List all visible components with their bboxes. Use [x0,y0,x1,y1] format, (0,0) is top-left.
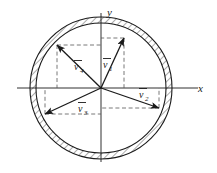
v4-label-text: v [74,61,79,72]
annulus-hatched-region [0,0,217,173]
v1-label-text: v [103,59,108,70]
figure-container: x y v 1 v 2 v 3 v 4 [0,0,217,173]
y-axis-label: y [106,6,112,18]
v3-label-subscript: 3 [83,109,88,117]
vector-diagram: x y v 1 v 2 v 3 v 4 [0,0,217,173]
v3-label-text: v [78,103,83,114]
v2-label-text: v [139,89,144,100]
v4-label-subscript: 4 [80,67,84,75]
v1-label-subscript: 1 [109,65,113,73]
x-axis-label: x [197,82,203,94]
v2-label-subscript: 2 [145,95,149,103]
